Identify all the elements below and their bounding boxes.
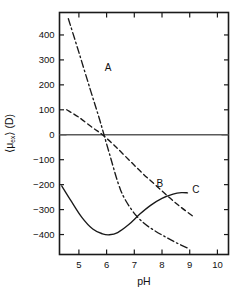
y-tick-label: 0 xyxy=(49,129,54,140)
x-tick-label: 10 xyxy=(212,259,223,270)
x-tick-labels: 5678910 xyxy=(76,259,222,270)
y-axis-title-text: ⟨μex⟩ (D) xyxy=(3,114,16,153)
figure-container: 5678910 −400−300−200−1000100200300400 AB… xyxy=(0,0,237,297)
curve-A xyxy=(68,19,189,249)
curve-label-C: C xyxy=(192,184,199,195)
curve-C xyxy=(62,186,188,235)
chart-canvas: 5678910 −400−300−200−1000100200300400 AB… xyxy=(0,0,237,297)
y-tick-label: −400 xyxy=(33,229,54,240)
x-axis-title: pH xyxy=(137,275,150,287)
x-tick-label: 8 xyxy=(159,259,164,270)
curve-B xyxy=(67,110,193,216)
curve-labels: ABC xyxy=(105,62,200,195)
y-axis-title: ⟨μex⟩ (D) xyxy=(3,114,16,153)
plot-frame xyxy=(60,13,229,255)
x-tick-label: 6 xyxy=(104,259,109,270)
x-axis-ticks xyxy=(79,13,218,255)
y-tick-label: −100 xyxy=(33,154,54,165)
y-tick-label: −200 xyxy=(33,179,54,190)
curve-label-B: B xyxy=(156,178,163,189)
x-tick-label: 7 xyxy=(132,259,137,270)
y-tick-label: 400 xyxy=(39,29,55,40)
y-tick-labels: −400−300−200−1000100200300400 xyxy=(33,29,54,240)
y-tick-label: 100 xyxy=(39,104,55,115)
x-tick-label: 5 xyxy=(76,259,81,270)
y-tick-label: −300 xyxy=(33,204,54,215)
x-axis-title-text: pH xyxy=(137,275,150,287)
x-tick-label: 9 xyxy=(187,259,192,270)
y-tick-label: 300 xyxy=(39,54,55,65)
data-curves xyxy=(62,19,193,249)
y-tick-label: 200 xyxy=(39,79,55,90)
curve-label-A: A xyxy=(105,62,112,73)
